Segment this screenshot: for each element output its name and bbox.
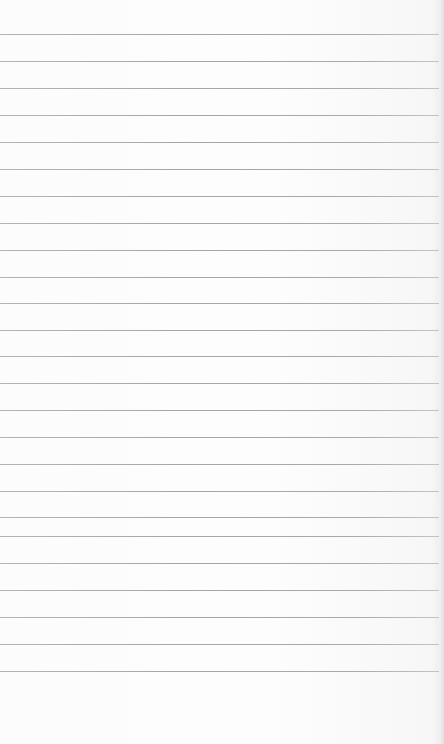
ruled-line	[0, 671, 439, 672]
ruled-line	[0, 196, 439, 197]
ruled-line	[0, 517, 439, 518]
ruled-line	[0, 115, 439, 116]
paper-edge-shadow	[440, 0, 444, 744]
ruled-line	[0, 303, 439, 304]
ruled-line	[0, 250, 439, 251]
ruled-line	[0, 563, 439, 564]
ruled-line	[0, 277, 439, 278]
ruled-line	[0, 617, 439, 618]
ruled-line	[0, 142, 439, 143]
ruled-line	[0, 330, 439, 331]
ruled-line	[0, 590, 439, 591]
ruled-line	[0, 437, 439, 438]
ruled-line	[0, 410, 439, 411]
ruled-line	[0, 223, 439, 224]
ruled-line	[0, 644, 439, 645]
ruled-line	[0, 356, 439, 357]
ruled-line	[0, 491, 439, 492]
ruled-line	[0, 383, 439, 384]
ruled-line	[0, 34, 439, 35]
ruled-line	[0, 169, 439, 170]
ruled-line	[0, 464, 439, 465]
ruled-line	[0, 88, 439, 89]
lined-paper-sheet	[0, 0, 444, 744]
ruled-line	[0, 536, 439, 537]
ruled-line	[0, 61, 439, 62]
